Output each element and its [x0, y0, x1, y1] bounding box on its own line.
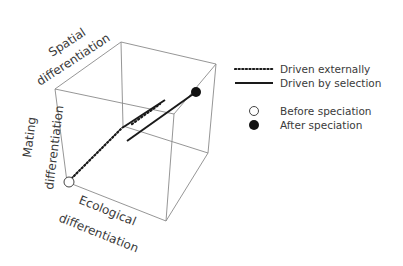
solid-line-icon — [230, 81, 278, 85]
dotted-segment-external — [69, 128, 122, 181]
solid-segment-lower — [127, 92, 196, 141]
trajectory — [64, 87, 201, 187]
before-speciation-point — [64, 177, 74, 187]
speciation-cube-diagram: Spatial differentiation Mating different… — [0, 0, 403, 266]
legend-item-selection: Driven by selection — [230, 76, 381, 90]
legend-label: After speciation — [280, 118, 362, 132]
legend-label: Before speciation — [280, 104, 372, 118]
legend-label: Driven by selection — [280, 76, 381, 90]
open-circle-icon — [230, 105, 278, 117]
legend: Driven externally Driven by selection Be… — [230, 62, 381, 132]
after-speciation-point — [191, 87, 201, 97]
filled-circle-icon — [230, 119, 278, 131]
legend-item-external: Driven externally — [230, 62, 381, 76]
legend-item-before: Before speciation — [230, 104, 381, 118]
cube-wireframe — [55, 42, 216, 221]
legend-label: Driven externally — [280, 62, 370, 76]
dotted-line-icon — [230, 67, 278, 71]
mating-label-line1: Mating — [20, 116, 39, 158]
legend-item-after: After speciation — [230, 118, 381, 132]
